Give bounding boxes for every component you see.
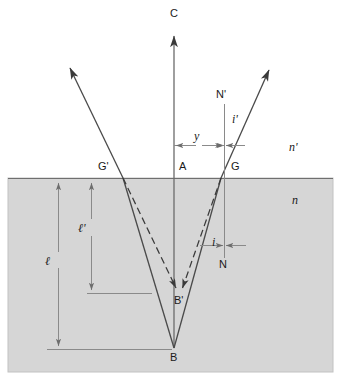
ray-diagram-svg xyxy=(0,0,341,379)
label-normal-n: N xyxy=(219,259,227,270)
label-depth-l-prime: ℓ' xyxy=(78,222,86,234)
label-offset-y: y xyxy=(194,130,199,142)
label-normal-n-prime: N' xyxy=(216,89,226,100)
refracted-ray-Gprime-out xyxy=(70,68,123,178)
label-axis-top: C xyxy=(170,8,178,19)
refracted-ray-G-out xyxy=(221,70,269,178)
figure-canvas: C A B B' G G' N N' i i' n n' ℓ ℓ' y xyxy=(0,0,341,379)
label-angle-i: i xyxy=(212,236,215,248)
label-point-g: G xyxy=(231,161,240,172)
label-point-b-prime: B' xyxy=(174,295,183,306)
label-index-n: n xyxy=(292,194,298,206)
label-depth-l: ℓ xyxy=(45,255,50,267)
label-point-b: B xyxy=(170,352,177,363)
label-point-a: A xyxy=(179,161,186,172)
denser-medium-region xyxy=(8,178,333,372)
label-angle-i-prime: i' xyxy=(232,113,238,125)
label-index-n-prime: n' xyxy=(289,141,298,153)
label-point-g-prime: G' xyxy=(98,161,109,172)
